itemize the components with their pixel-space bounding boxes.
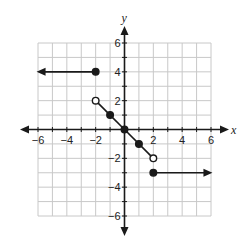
y-tick-label: −6 xyxy=(108,210,121,222)
y-axis-up-arrow-icon xyxy=(121,26,129,35)
x-axis-right-arrow-icon xyxy=(220,126,229,134)
open-point-marker xyxy=(150,155,157,162)
y-tick-label: 2 xyxy=(114,95,120,107)
y-tick-label: −4 xyxy=(108,181,121,193)
x-tick-label: −2 xyxy=(89,134,102,146)
x-axis-label: x xyxy=(230,123,237,137)
y-axis-label: y xyxy=(121,11,128,25)
coordinate-plane: −6−4−2246642−2−4−6 x y xyxy=(0,0,247,249)
x-tick-label: 6 xyxy=(208,134,214,146)
point-marker xyxy=(107,112,114,119)
point-marker xyxy=(136,141,143,148)
y-tick-label: −2 xyxy=(108,152,121,164)
y-tick-label: 6 xyxy=(114,37,120,49)
y-tick-label: 4 xyxy=(114,66,120,78)
y-axis-down-arrow-icon xyxy=(121,227,129,236)
x-tick-label: 2 xyxy=(150,134,156,146)
point-marker xyxy=(121,126,128,133)
x-axis-left-arrow-icon xyxy=(20,126,29,134)
closed-point-marker xyxy=(92,69,99,76)
x-tick-label: 4 xyxy=(179,134,185,146)
x-tick-label: −6 xyxy=(32,134,45,146)
open-point-marker xyxy=(92,97,99,104)
closed-point-marker xyxy=(150,169,157,176)
x-tick-label: −4 xyxy=(61,134,74,146)
